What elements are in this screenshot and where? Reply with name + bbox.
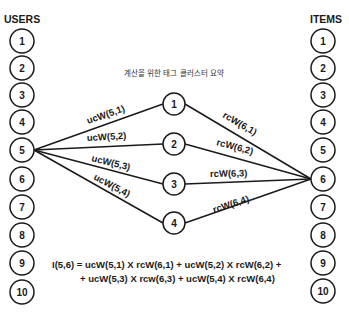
formula-line-1: I(5,6) = ucW(5,1) X rcW(6,1) + ucW(5,2) …: [52, 259, 282, 270]
svg-text:9: 9: [320, 258, 326, 269]
formula-line-2: + ucW(5,3) X rcw(6,3) + ucW(5,4) X rcW(6…: [80, 273, 275, 284]
svg-text:3: 3: [19, 90, 25, 101]
cluster-node-1: 1: [163, 93, 185, 115]
edge-cluster3-item6: [185, 179, 311, 184]
cluster-node-3: 3: [163, 173, 185, 195]
item-node-1: 1: [311, 29, 335, 53]
svg-text:3: 3: [320, 90, 326, 101]
edge-label-rcw-6-4: rcW(6,4): [211, 193, 250, 215]
users-column: 1 2 3 4 5 6 7 8 9 10: [10, 29, 34, 304]
svg-text:7: 7: [19, 202, 25, 213]
user-node-7: 7: [10, 195, 34, 219]
user-node-5: 5: [10, 138, 34, 162]
user-node-1: 1: [10, 29, 34, 53]
diagram-caption: 계산을 위한 태그 클러스터 요약: [124, 68, 223, 78]
user-item-cluster-diagram: USERS ITEMS 계산을 위한 태그 클러스터 요약 ucW(5,1) u…: [0, 0, 349, 315]
edge-label-ucw-5-1: ucW(5,1): [85, 103, 126, 126]
cluster-node-4: 4: [163, 212, 185, 234]
edge-cluster1-item6: [185, 104, 311, 179]
edge-label-ucw-5-3: ucW(5,3): [91, 152, 132, 172]
svg-text:4: 4: [171, 218, 177, 229]
users-title: USERS: [4, 13, 40, 25]
svg-text:2: 2: [19, 63, 25, 74]
edge-label-ucw-5-2: ucW(5,2): [87, 130, 127, 143]
svg-text:8: 8: [320, 230, 326, 241]
user-node-6: 6: [10, 167, 34, 191]
svg-text:5: 5: [320, 145, 326, 156]
svg-text:4: 4: [320, 117, 326, 128]
clusters-column: 1 2 3 4: [163, 93, 185, 234]
svg-text:3: 3: [171, 179, 177, 190]
items-column: 1 2 3 4 5 6 7 8 9 10: [311, 29, 335, 303]
item-node-10: 10: [311, 279, 335, 303]
svg-text:2: 2: [171, 139, 177, 150]
items-title: ITEMS: [310, 13, 342, 25]
svg-text:2: 2: [320, 63, 326, 74]
user-node-4: 4: [10, 110, 34, 134]
edge-label-rcw-6-3: rcW(6,3): [210, 167, 248, 179]
svg-text:8: 8: [19, 230, 25, 241]
item-node-2: 2: [311, 56, 335, 80]
svg-text:6: 6: [320, 174, 326, 185]
edge-label-rcw-6-1: rcW(6,1): [221, 109, 259, 137]
edge-label-ucw-5-4: ucW(5,4): [92, 171, 132, 199]
svg-text:1: 1: [320, 36, 326, 47]
svg-text:7: 7: [320, 202, 326, 213]
item-node-8: 8: [311, 223, 335, 247]
svg-text:1: 1: [19, 36, 25, 47]
svg-text:4: 4: [19, 117, 25, 128]
svg-text:9: 9: [19, 258, 25, 269]
user-node-8: 8: [10, 223, 34, 247]
item-node-3: 3: [311, 83, 335, 107]
svg-text:10: 10: [317, 286, 329, 297]
cluster-node-2: 2: [163, 133, 185, 155]
edge-user5-cluster2: [34, 144, 163, 150]
svg-text:5: 5: [19, 145, 25, 156]
item-node-5: 5: [311, 138, 335, 162]
item-node-9: 9: [311, 251, 335, 275]
user-node-10: 10: [10, 280, 34, 304]
user-node-3: 3: [10, 83, 34, 107]
item-node-7: 7: [311, 195, 335, 219]
svg-text:6: 6: [19, 174, 25, 185]
svg-text:1: 1: [171, 99, 177, 110]
item-node-4: 4: [311, 110, 335, 134]
user-node-2: 2: [10, 56, 34, 80]
item-node-6: 6: [311, 167, 335, 191]
svg-text:10: 10: [16, 287, 28, 298]
user-node-9: 9: [10, 251, 34, 275]
